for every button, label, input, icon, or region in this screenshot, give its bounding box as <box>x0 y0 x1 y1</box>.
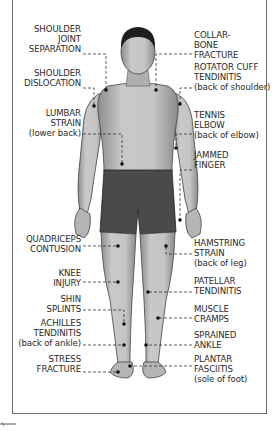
left-leg <box>101 232 136 364</box>
label-shoulder-joint-separation: SHOULDER JOINT SEPARATION <box>29 24 81 54</box>
right-hand <box>186 208 202 238</box>
label-knee-injury: KNEE INJURY <box>53 268 81 288</box>
label-hamstring-strain: HAMSTRING STRAIN (back of leg) <box>194 238 247 268</box>
label-shin-splints: SHIN SPLINTS <box>47 294 81 314</box>
label-sprained-ankle: SPRAINED ANKLE <box>194 330 236 350</box>
label-muscle-cramps: MUSCLE CRAMPS <box>194 304 229 324</box>
shorts <box>100 170 176 234</box>
label-achilles-tendinitis: ACHILLES TENDINITIS (back of ankle) <box>18 318 81 348</box>
label-collarbone-fracture: COLLAR- BONE FRACTURE <box>194 30 238 60</box>
label-quadriceps-contusion: QUADRICEPS CONTUSION <box>26 234 81 254</box>
label-rotator-cuff-tendinitis: ROTATOR CUFF TENDINITIS (back of shoulde… <box>194 62 270 92</box>
label-tennis-elbow: TENNIS ELBOW (back of elbow) <box>194 110 259 140</box>
label-shoulder-dislocation: SHOULDER DISLOCATION <box>24 68 81 88</box>
label-jammed-finger: JAMMED FINGER <box>194 150 229 170</box>
right-foot <box>143 362 166 378</box>
label-plantar-fasciitis: PLANTAR FASCIITIS (sole of foot) <box>194 354 247 384</box>
label-patellar-tendinitis: PATELLAR TENDINITIS <box>194 276 241 296</box>
label-lumbar-strain: LUMBAR STRAIN (lower back) <box>29 108 81 138</box>
torso <box>98 83 179 172</box>
label-stress-fracture: STRESS FRACTURE <box>37 354 81 374</box>
corner-mark-icon <box>0 422 16 426</box>
